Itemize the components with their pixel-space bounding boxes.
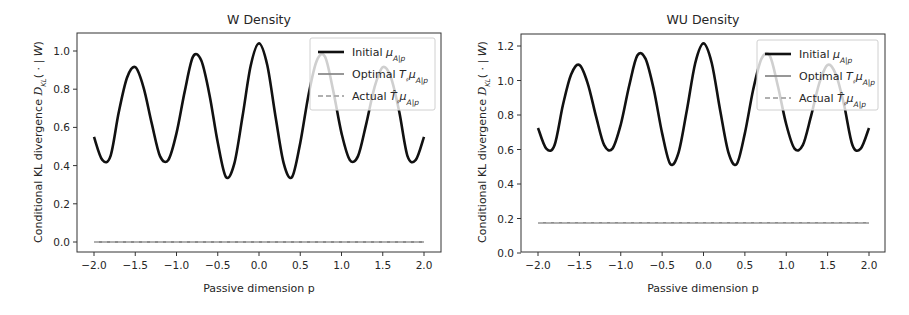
- y-axis-label: Conditional KL divergence DKL( · | W): [32, 41, 48, 243]
- x-tick-label: 1.5: [374, 259, 391, 271]
- x-tick-label: −1.0: [608, 259, 634, 271]
- figure: W Density 0.00.20.40.60.81.0 −2.0−1.5−1.…: [0, 0, 909, 315]
- y-tick-label: 0.0: [497, 247, 514, 259]
- y-tick-label: 0.6: [53, 121, 70, 133]
- x-tick-label: −0.5: [649, 259, 675, 271]
- x-tick-label: 1.5: [819, 259, 836, 271]
- x-tick-label: −0.5: [205, 259, 231, 271]
- x-tick-label: 1.0: [333, 259, 350, 271]
- y-tick-label: 0.6: [497, 144, 514, 156]
- y-axis: 0.00.20.40.60.81.0: [53, 45, 77, 248]
- x-tick-label: −1.5: [123, 259, 149, 271]
- x-tick-label: 0.0: [251, 259, 268, 271]
- plot-title: WU Density: [666, 12, 740, 27]
- x-axis-label: Passive dimension p: [647, 282, 759, 295]
- x-tick-label: 0.5: [737, 259, 754, 271]
- panel-w-density: W Density 0.00.20.40.60.81.0 −2.0−1.5−1.…: [32, 12, 441, 295]
- x-tick-label: 1.0: [778, 259, 795, 271]
- legend: Initial μA|pOptimal T♯μA|pActual T̂♯μA|p: [310, 38, 435, 110]
- panel-wu-density: WU Density 0.00.20.40.60.81.01.2 −2.0−1.…: [476, 12, 885, 295]
- x-tick-label: 2.0: [416, 259, 433, 271]
- x-tick-label: −2.0: [525, 259, 551, 271]
- x-axis: −2.0−1.5−1.0−0.50.00.51.01.52.0: [81, 252, 432, 271]
- x-axis: −2.0−1.5−1.0−0.50.00.51.01.52.0: [525, 252, 877, 271]
- y-tick-label: 0.8: [53, 83, 70, 95]
- y-tick-label: 1.2: [497, 40, 514, 52]
- y-tick-label: 0.8: [497, 109, 514, 121]
- y-tick-label: 0.4: [497, 178, 514, 190]
- y-tick-label: 1.0: [497, 75, 514, 87]
- x-tick-label: 0.5: [292, 259, 309, 271]
- y-tick-label: 1.0: [53, 45, 70, 57]
- y-tick-label: 0.2: [53, 198, 70, 210]
- y-tick-label: 0.2: [497, 213, 514, 225]
- y-axis: 0.00.20.40.60.81.01.2: [497, 40, 521, 259]
- x-tick-label: −1.0: [164, 259, 190, 271]
- y-tick-label: 0.0: [53, 236, 70, 248]
- x-axis-label: Passive dimension p: [203, 282, 315, 295]
- legend: Initial μA|pOptimal T♯μA|pActual T̂♯μA|p: [757, 40, 878, 110]
- x-tick-label: −2.0: [81, 259, 107, 271]
- x-tick-label: 0.0: [695, 259, 712, 271]
- plot-title: W Density: [227, 12, 291, 27]
- x-tick-label: −1.5: [567, 259, 593, 271]
- x-tick-label: 2.0: [861, 259, 878, 271]
- y-axis-label: Conditional KL divergence DKL( · | W): [476, 41, 492, 243]
- y-tick-label: 0.4: [53, 160, 70, 172]
